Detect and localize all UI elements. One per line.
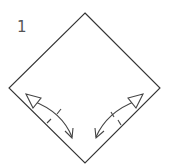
paper-diamond bbox=[9, 13, 160, 163]
origami-diagram bbox=[0, 0, 171, 166]
left-fold-and-unfold-arrow-icon bbox=[26, 94, 73, 138]
right-fold-and-unfold-arrow-icon bbox=[95, 94, 143, 138]
